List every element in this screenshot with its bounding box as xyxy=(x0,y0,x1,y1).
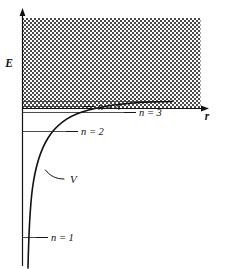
coulomb-potential-figure: E r V n = 4 n = 3 n = 2 n = 1 xyxy=(0,0,225,269)
continuum-hatch-fill xyxy=(23,18,201,108)
leader-line-potential-label xyxy=(46,170,65,179)
continuum-region xyxy=(23,18,201,108)
energy-level-3-label: n = 3 xyxy=(139,107,162,118)
energy-axis-label: E xyxy=(4,57,13,69)
energy-level-4-label: n = 4 xyxy=(98,101,122,112)
energy-levels-group xyxy=(23,102,159,238)
figure-canvas: E r V n = 4 n = 3 n = 2 n = 1 xyxy=(0,0,225,269)
energy-level-2-label: n = 2 xyxy=(81,126,105,137)
energy-axis-arrowhead xyxy=(20,8,26,16)
radius-axis-label: r xyxy=(205,110,210,122)
potential-curve-label: V xyxy=(70,173,78,185)
energy-level-1-label: n = 1 xyxy=(51,232,74,243)
